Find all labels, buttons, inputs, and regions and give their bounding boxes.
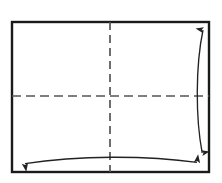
paper-sheet-outline [12,22,209,172]
diagram-svg [0,0,222,183]
diagram-canvas: Rectangular sheet with centre fold lines… [0,0,222,183]
